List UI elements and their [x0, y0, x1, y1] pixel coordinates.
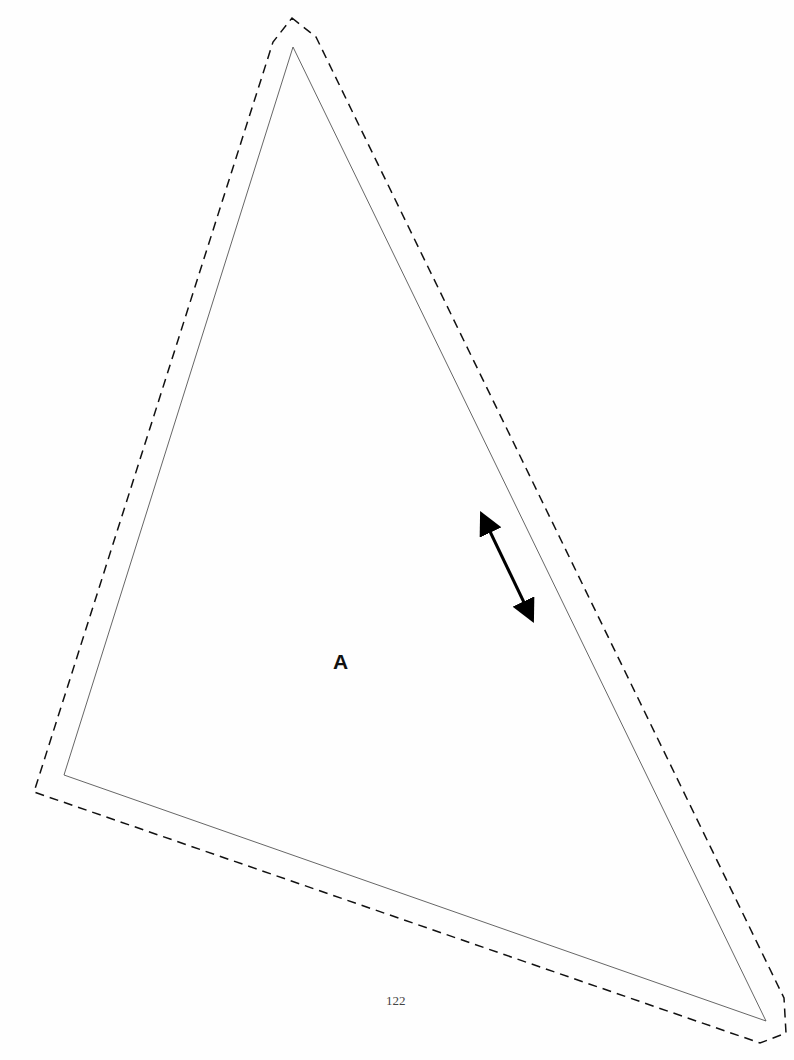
triangle-piece-outline [64, 47, 766, 1021]
grainline-arrow-icon [484, 519, 530, 615]
pattern-template-drawing [0, 0, 794, 1060]
seam-allowance-outline [34, 18, 786, 1043]
piece-label: A [333, 650, 348, 674]
pattern-page: A 122 [0, 0, 794, 1060]
page-number: 122 [386, 993, 406, 1009]
